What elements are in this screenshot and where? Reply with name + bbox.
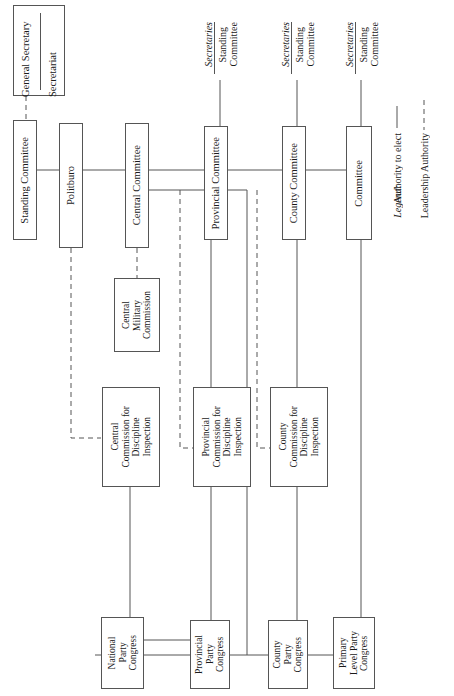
legend-label-authority-to-elect: Authority to elect bbox=[392, 133, 403, 204]
general-secretariat-box[interactable]: General Secretary Secretariat bbox=[13, 5, 65, 96]
primary-secretaries-underline bbox=[355, 22, 356, 74]
secretariat-divider bbox=[40, 13, 41, 90]
provincial-party-congress-box[interactable]: Provincial Party Congress bbox=[190, 620, 230, 689]
provincial-secretaries-sub: Standing Committee bbox=[217, 22, 239, 66]
central-committee-box[interactable]: Central Committee bbox=[125, 123, 149, 248]
central-cdi-label: Central Commission for Discipline Inspec… bbox=[110, 406, 153, 468]
county-secretaries-underline bbox=[291, 22, 292, 74]
provincial-cdi-label: Provincial Commission for Discipline Ins… bbox=[201, 406, 244, 468]
politburo-box[interactable]: Politburo bbox=[59, 123, 83, 248]
central-cdi-box[interactable]: Central Commission for Discipline Inspec… bbox=[102, 387, 160, 487]
national-party-congress-label: National Party Congress bbox=[107, 635, 139, 670]
central-committee-label: Central Committee bbox=[131, 145, 143, 225]
standing-committee-label: Standing Committee bbox=[19, 137, 31, 224]
dash-pcdi-ccountydi bbox=[257, 190, 270, 448]
county-party-congress-box[interactable]: County Party Congress bbox=[268, 620, 308, 689]
provincial-committee-label: Provincial Committee bbox=[210, 137, 222, 229]
general-secretary-label: General Secretary bbox=[20, 6, 32, 97]
primary-committee-box[interactable]: Committee bbox=[346, 126, 372, 240]
secretariat-label: Secretariat bbox=[47, 6, 59, 97]
central-military-commission-label: Central Military Commission bbox=[121, 291, 153, 339]
org-chart-canvas: General Secretary Secretariat Standing C… bbox=[0, 0, 454, 696]
county-cdi-label: County Commission for Discipline Inspect… bbox=[278, 406, 321, 468]
primary-secretaries-sub: Standing Committee bbox=[358, 22, 380, 66]
provincial-party-congress-label: Provincial Party Congress bbox=[194, 635, 226, 674]
county-committee-label: County Committee bbox=[288, 143, 300, 223]
county-cdi-box[interactable]: County Commission for Discipline Inspect… bbox=[270, 387, 328, 487]
county-secretaries-sub: Standing Committee bbox=[294, 22, 316, 66]
provincial-secretaries-heading: Secretaries bbox=[203, 22, 214, 67]
politburo-label: Politburo bbox=[65, 166, 77, 205]
dash-politburo-ccdi bbox=[71, 248, 101, 438]
county-party-congress-label: County Party Congress bbox=[272, 637, 304, 672]
county-committee-box[interactable]: County Committee bbox=[282, 126, 306, 240]
legend-label-leadership-authority: Leadership Authority bbox=[419, 133, 430, 218]
provincial-committee-box[interactable]: Provincial Committee bbox=[204, 126, 228, 240]
dash-ccdi-pcdi bbox=[180, 190, 193, 448]
primary-secretaries-heading: Secretaries bbox=[344, 22, 355, 67]
primary-level-party-congress-box[interactable]: Primary Level Party Congress bbox=[333, 617, 375, 689]
standing-committee-box[interactable]: Standing Committee bbox=[13, 120, 37, 240]
connector-lines bbox=[0, 0, 454, 696]
provincial-cdi-box[interactable]: Provincial Commission for Discipline Ins… bbox=[193, 387, 251, 487]
primary-committee-label: Committee bbox=[353, 160, 365, 207]
provincial-secretaries-underline bbox=[214, 22, 215, 74]
primary-level-party-congress-label: Primary Level Party Congress bbox=[338, 631, 370, 675]
national-party-congress-box[interactable]: National Party Congress bbox=[101, 617, 144, 689]
central-military-commission-box[interactable]: Central Military Commission bbox=[114, 278, 160, 352]
county-secretaries-heading: Secretaries bbox=[280, 22, 291, 67]
